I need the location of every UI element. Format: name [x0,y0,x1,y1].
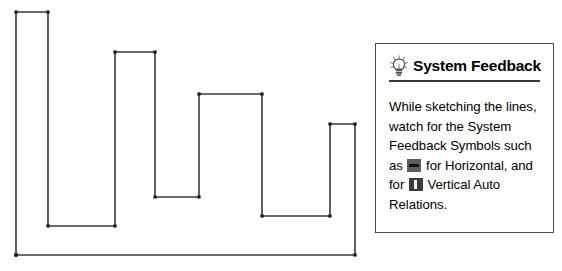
sketch-vertex-markers[interactable] [14,10,356,256]
sketch-vertex-marker[interactable] [328,122,331,125]
sketch-polyline-graphic [0,0,368,271]
vertical-relation-symbol-icon [409,178,423,191]
sketch-vertex-marker[interactable] [153,195,156,198]
sketch-vertex-marker[interactable] [353,122,356,125]
sketch-vertex-marker[interactable] [14,10,17,13]
sketch-vertex-marker[interactable] [197,195,200,198]
sketch-vertex-marker[interactable] [46,10,49,13]
sketch-canvas[interactable] [0,0,368,271]
sketch-vertex-marker[interactable] [260,92,263,95]
callout-title: System Feedback [413,57,541,74]
sketch-vertex-marker[interactable] [197,92,200,95]
callout-body-text: While sketching the lines, watch for the… [389,97,540,215]
sketch-polyline[interactable] [16,12,355,255]
lightbulb-icon [389,55,409,77]
sketch-vertex-marker[interactable] [328,214,331,217]
sketch-vertex-marker[interactable] [46,224,49,227]
sketch-vertex-marker[interactable] [113,50,116,53]
sketch-vertex-marker[interactable] [260,214,263,217]
sketch-vertex-marker[interactable] [14,253,17,256]
system-feedback-callout: System Feedback While sketching the line… [375,43,554,233]
sketch-vertex-marker[interactable] [353,253,356,256]
sketch-vertex-marker[interactable] [113,224,116,227]
sketch-vertex-marker[interactable] [153,50,156,53]
horizontal-relation-symbol-icon [407,159,421,172]
callout-header: System Feedback [389,55,540,82]
